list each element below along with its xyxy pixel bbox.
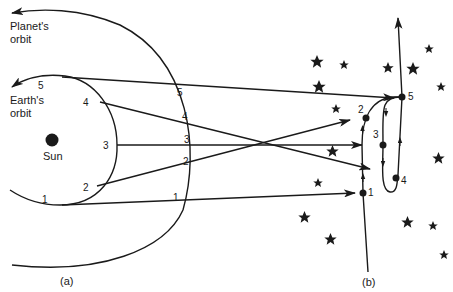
retrograde-motion-diagram [0, 0, 453, 292]
panel-b-label: (b) [362, 276, 375, 288]
planet-point-label-5: 5 [177, 88, 183, 98]
apparent-loop [383, 18, 402, 192]
earth-point-label-4: 4 [83, 98, 89, 108]
apparent-point-4 [393, 175, 400, 182]
sightline-4 [100, 102, 370, 169]
sightline-5 [62, 77, 394, 98]
apparent-point-label-2: 2 [358, 105, 364, 115]
earth-point-label-2: 2 [83, 183, 89, 193]
apparent-point-1 [360, 190, 367, 197]
apparent-point-label-4: 4 [401, 176, 407, 186]
planet-orbit-lower [12, 210, 183, 267]
planet-point-label-1: 1 [173, 193, 179, 203]
earth-point-label-1: 1 [42, 195, 48, 205]
earth-point-label-5: 5 [38, 81, 44, 91]
panel-a-label: (a) [60, 275, 73, 287]
apparent-point-label-1: 1 [368, 188, 374, 198]
planet-point-label-4: 4 [182, 112, 188, 122]
planet-point-label-3: 3 [184, 135, 190, 145]
earth-orbit-label-1: Earth's [10, 94, 44, 106]
earth-orbit-lower [10, 190, 60, 205]
planet-orbit [12, 10, 190, 210]
earth-orbit-label-2: orbit [10, 107, 31, 119]
sightline-1 [62, 193, 355, 205]
planet-point-label-2: 2 [183, 157, 189, 167]
planet-orbit-label-1: Planet's [10, 20, 49, 32]
sun-label: Sun [43, 150, 63, 162]
sun-icon [46, 134, 59, 147]
background-stars [298, 44, 448, 259]
apparent-point-5 [399, 94, 406, 101]
apparent-path [362, 97, 402, 272]
apparent-point-2 [363, 115, 370, 122]
planet-orbit-label-2: orbit [10, 33, 31, 45]
apparent-point-label-5: 5 [408, 92, 414, 102]
apparent-point-label-3: 3 [373, 130, 379, 140]
sightline-2 [97, 120, 350, 186]
earth-point-label-3: 3 [103, 141, 109, 151]
apparent-point-3 [380, 142, 387, 149]
